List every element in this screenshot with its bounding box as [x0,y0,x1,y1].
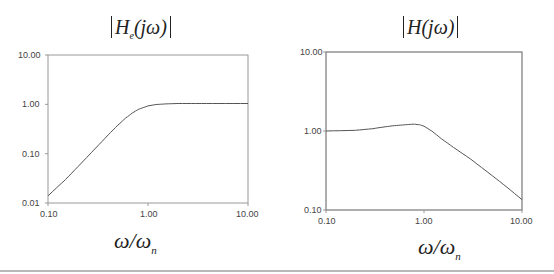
right-axis-ticks [323,52,522,213]
left-plot-area [48,55,248,203]
right-series-line [326,124,522,200]
left-axis-ticks [45,55,248,206]
plots-canvas [0,0,554,274]
bottom-separator [0,270,554,272]
right-plot-area [326,52,522,210]
left-series-line [48,104,248,196]
